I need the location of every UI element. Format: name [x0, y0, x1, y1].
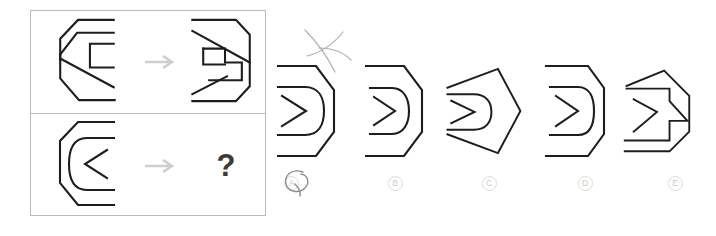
arrow-right-icon	[143, 54, 177, 70]
question-panel: ?	[30, 10, 266, 216]
arrow-right-icon	[143, 158, 177, 174]
row-top-arrow	[135, 11, 185, 113]
row-top-source-figure	[35, 11, 131, 113]
hexagon-with-nested-reversed-bracket-icon	[187, 11, 265, 113]
answer-options: A B C D	[270, 10, 716, 216]
row-top-target-figure	[187, 11, 265, 113]
analogy-row-top	[31, 11, 265, 114]
answer-option-e[interactable]: E	[614, 50, 700, 210]
option-d-shape-icon	[532, 50, 618, 172]
row-bottom-arrow	[135, 114, 185, 217]
option-a-label: A	[284, 176, 324, 191]
answer-option-d[interactable]: D	[532, 50, 618, 210]
option-e-label: E	[632, 176, 716, 191]
option-e-shape-icon	[614, 50, 700, 172]
option-c-label: C	[446, 176, 532, 191]
answer-option-b[interactable]: B	[352, 50, 438, 210]
octagon-with-nested-C-bracket-icon	[35, 11, 131, 113]
row-bottom-target-unknown: ?	[187, 114, 265, 217]
question-mark: ?	[187, 114, 265, 217]
answer-option-a[interactable]: A	[272, 50, 358, 210]
option-c-shape-icon	[440, 50, 526, 172]
option-b-shape-icon	[352, 50, 438, 172]
option-b-label: B	[352, 176, 438, 191]
row-bottom-source-figure	[35, 114, 131, 217]
option-a-shape-icon	[272, 50, 358, 172]
answer-option-c[interactable]: C	[440, 50, 526, 210]
octagon-with-rounded-C-and-chevron-icon	[35, 114, 131, 217]
analogy-row-bottom: ?	[31, 114, 265, 217]
